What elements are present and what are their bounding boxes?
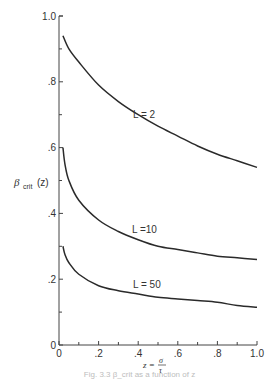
figure-caption: Fig. 3.3 β_crit as a function of z — [0, 370, 279, 379]
x-tick-label: .2 — [94, 348, 103, 359]
y-tick-label: .2 — [48, 274, 57, 285]
x-tick-label: .4 — [134, 348, 143, 359]
x-tick-label: .8 — [213, 348, 222, 359]
tick-labels: 0.2.4.6.81.00.2.4.6.81.0 — [42, 11, 264, 360]
y-tick-label: .8 — [48, 76, 57, 87]
xlabel-num: σ — [159, 356, 164, 365]
curve-label-l50: L = 50 — [133, 279, 161, 290]
y-tick-label: 1.0 — [42, 11, 56, 22]
axes — [59, 16, 257, 345]
curves — [63, 36, 257, 307]
curve-label-l2: L = 2 — [133, 109, 156, 120]
curve-label-l10: L =10 — [132, 224, 157, 235]
x-tick-label: 1.0 — [250, 348, 264, 359]
xlabel-lhs: z = — [142, 360, 155, 370]
ylabel-beta: β — [13, 176, 20, 188]
curve-l50 — [63, 246, 257, 307]
x-tick-label: .6 — [174, 348, 183, 359]
curve-l10 — [63, 148, 257, 260]
y-tick-label: .6 — [48, 142, 57, 153]
y-tick-label: .4 — [48, 208, 57, 219]
curve-l2 — [63, 36, 257, 168]
y-axis-label: β crit (z) — [13, 176, 49, 190]
chart: 0.2.4.6.81.00.2.4.6.81.0 L = 2 L =10 L =… — [0, 0, 279, 385]
x-tick-label: 0 — [56, 348, 62, 359]
ylabel-sub: crit — [23, 183, 32, 190]
ylabel-arg: (z) — [37, 177, 49, 188]
